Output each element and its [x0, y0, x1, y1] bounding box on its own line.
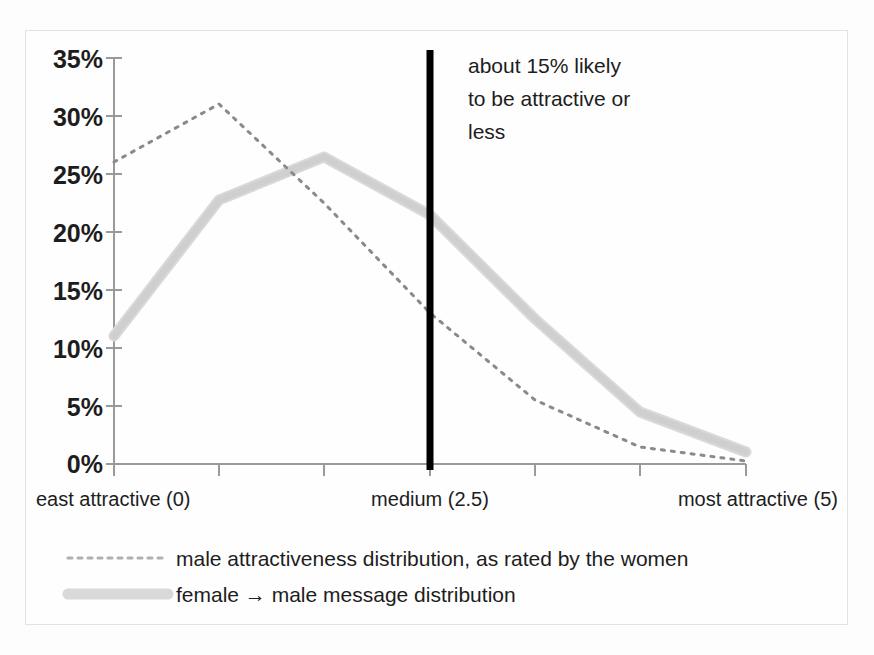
annotation-line: about 15% likely — [468, 54, 621, 77]
y-tick-label: 10% — [53, 335, 103, 363]
y-tick-label: 30% — [53, 103, 103, 131]
y-tick-label: 20% — [53, 219, 103, 247]
x-tick-label-medium: medium (2.5) — [371, 488, 489, 510]
y-tick-label: 35% — [53, 45, 103, 73]
x-axis-tick-labels: east attractive (0) medium (2.5) most at… — [36, 488, 838, 510]
threshold-annotation: about 15% likely to be attractive or les… — [468, 54, 630, 143]
y-tick-label: 5% — [67, 393, 103, 421]
legend-label-female-male-message: female → male message distribution — [176, 583, 516, 606]
x-tick-label-least-attractive: east attractive (0) — [36, 488, 191, 510]
legend: male attractiveness distribution, as rat… — [68, 547, 688, 606]
legend-label-male-attractiveness: male attractiveness distribution, as rat… — [176, 547, 688, 570]
y-tick-label: 15% — [53, 277, 103, 305]
chart-canvas: 35% 30% 25% 20% 15% 10% 5% 0% — [0, 0, 874, 655]
y-tick-label: 25% — [53, 161, 103, 189]
x-tick-label-most-attractive: most attractive (5) — [678, 488, 838, 510]
y-tick-label: 0% — [67, 450, 103, 478]
y-axis-tick-labels: 35% 30% 25% 20% 15% 10% 5% 0% — [53, 45, 103, 478]
annotation-line: to be attractive or — [468, 87, 630, 110]
annotation-line: less — [468, 120, 505, 143]
